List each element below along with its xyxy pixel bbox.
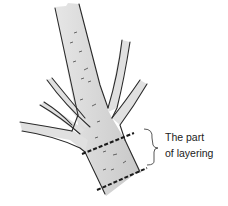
annotation-line-2: of layering	[165, 147, 213, 160]
branch-illustration	[0, 0, 228, 206]
annotation-line-1: The part	[165, 131, 213, 144]
annotation-brace	[144, 129, 158, 165]
annotation-label: The part of layering	[165, 131, 213, 160]
